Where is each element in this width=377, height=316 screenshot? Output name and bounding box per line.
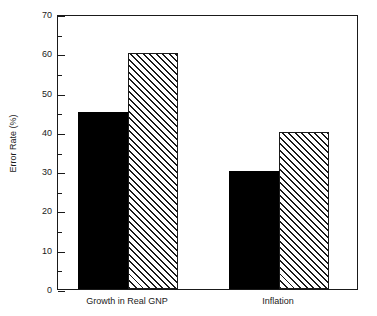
y-tick-major [58, 95, 65, 96]
y-tick-minor [58, 36, 62, 37]
x-category-label: Growth in Real GNP [57, 297, 197, 306]
y-tick-major [58, 212, 65, 213]
y-tick-label: 50 [22, 90, 52, 99]
y-tick-label: 20 [22, 207, 52, 216]
plot-area [57, 15, 358, 290]
x-category-label: Inflation [208, 297, 348, 306]
y-tick-minor [58, 75, 62, 76]
y-tick-major [58, 291, 65, 292]
y-tick-label: 60 [22, 50, 52, 59]
bar-chart: Error Rate (%) 010203040506070 Growth in… [0, 0, 377, 316]
y-axis-tick-labels: 010203040506070 [22, 0, 52, 316]
bar [279, 132, 329, 289]
y-tick-minor [58, 232, 62, 233]
y-tick-minor [58, 154, 62, 155]
y-tick-major [58, 252, 65, 253]
bar [128, 53, 178, 289]
y-tick-label: 10 [22, 247, 52, 256]
y-axis-title: Error Rate (%) [9, 79, 18, 209]
bar [229, 171, 279, 289]
y-tick-minor [58, 193, 62, 194]
y-tick-label: 30 [22, 168, 52, 177]
bar [78, 112, 128, 289]
y-tick-major [58, 134, 65, 135]
y-tick-label: 40 [22, 129, 52, 138]
y-tick-minor [58, 271, 62, 272]
y-tick-label: 70 [22, 11, 52, 20]
y-tick-minor [58, 114, 62, 115]
y-tick-label: 0 [22, 286, 52, 295]
y-tick-major [58, 55, 65, 56]
y-tick-major [58, 173, 65, 174]
y-tick-major [58, 16, 65, 17]
